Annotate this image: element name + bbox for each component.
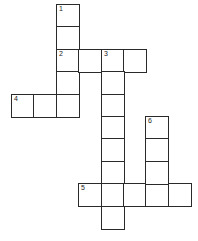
- crossword-cell[interactable]: [145, 161, 169, 185]
- clue-number: 4: [14, 95, 18, 103]
- crossword-cell[interactable]: [56, 94, 80, 118]
- crossword-cell[interactable]: 6: [145, 116, 169, 140]
- crossword-cell[interactable]: [168, 183, 192, 207]
- crossword-cell[interactable]: 1: [56, 4, 80, 28]
- crossword-cell[interactable]: [145, 138, 169, 162]
- clue-number: 6: [148, 117, 152, 125]
- crossword-cell[interactable]: [101, 94, 125, 118]
- crossword-cell[interactable]: [101, 71, 125, 95]
- crossword-cell[interactable]: [145, 183, 169, 207]
- clue-number: 5: [81, 184, 85, 192]
- crossword-cell[interactable]: [33, 94, 57, 118]
- crossword-cell[interactable]: [101, 183, 125, 207]
- crossword-cell[interactable]: [101, 206, 125, 230]
- crossword-cell[interactable]: 5: [78, 183, 102, 207]
- crossword-cell[interactable]: 4: [11, 94, 35, 118]
- crossword-cell[interactable]: [101, 138, 125, 162]
- crossword-cell[interactable]: [123, 49, 147, 73]
- crossword-cell[interactable]: [123, 183, 147, 207]
- clue-number: 2: [59, 50, 63, 58]
- crossword-cell[interactable]: 3: [101, 49, 125, 73]
- clue-number: 1: [59, 5, 63, 13]
- crossword-cell[interactable]: [101, 161, 125, 185]
- clue-number: 3: [104, 50, 108, 58]
- crossword-cell[interactable]: 2: [56, 49, 80, 73]
- crossword-cell[interactable]: [78, 49, 102, 73]
- crossword-cell[interactable]: [56, 71, 80, 95]
- crossword-cell[interactable]: [56, 26, 80, 50]
- crossword-cell[interactable]: [101, 116, 125, 140]
